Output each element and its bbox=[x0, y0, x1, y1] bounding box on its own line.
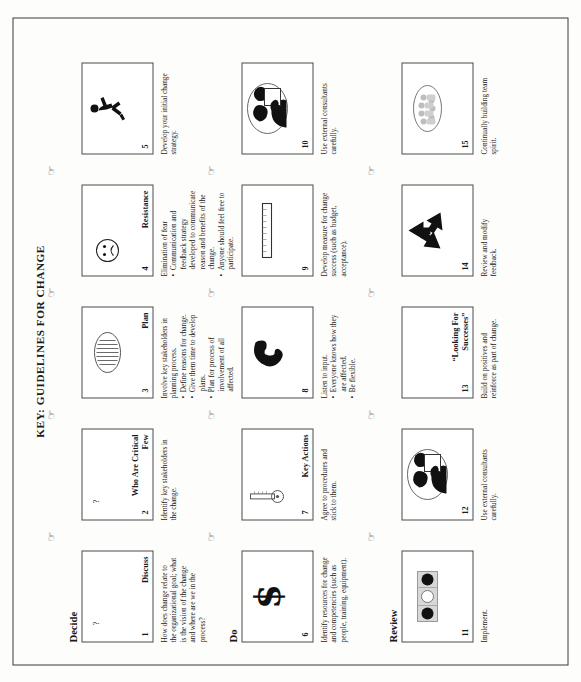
step-description: Build on positives and reinforce as part… bbox=[479, 312, 498, 398]
step-box-10[interactable]: 10 bbox=[241, 62, 313, 154]
step-number: 5 bbox=[140, 144, 149, 148]
desc-bullet: Everyone knows how they are affected. bbox=[328, 312, 347, 398]
desc-intro: Review and modify feedback. bbox=[479, 218, 497, 276]
row-label-decide: Decide bbox=[67, 611, 78, 642]
step-cell-3[interactable]: 3 Plan Involve key stakeholders in plann… bbox=[81, 306, 235, 398]
step-cell-1[interactable]: ? 1 Discuss How does change relate to th… bbox=[81, 550, 206, 642]
step-cell-4[interactable]: 4 Resistance Elimination of fear Communi… bbox=[81, 184, 235, 276]
step-description: Identify key stakeholders in the change. bbox=[159, 434, 178, 520]
step-caption: Plan bbox=[140, 312, 149, 328]
desc-bullet: Give them time to develop plans. bbox=[187, 312, 206, 398]
step-box-14[interactable]: 14 bbox=[401, 184, 473, 276]
desc-intro: Use external consultants carefully. bbox=[479, 449, 497, 520]
pointing-hand-icon: ☞ bbox=[365, 409, 376, 419]
rotated-page: KEY: GUIDELINES FOR CHANGE Decide ☞ ☞ ☞ … bbox=[0, 0, 581, 682]
step-box-13[interactable]: 13 “Looking For Successes” bbox=[401, 306, 473, 398]
step-description: Agree to procedures and stick to them. bbox=[319, 434, 338, 520]
step-box-11[interactable]: 11 bbox=[401, 550, 473, 642]
pointing-hand-icon: ☞ bbox=[205, 531, 216, 541]
step-cell-13[interactable]: 13 “Looking For Successes” Build on posi… bbox=[401, 306, 498, 398]
step-number: 9 bbox=[300, 266, 309, 270]
desc-bullet: Communication and feedback strategy deve… bbox=[168, 190, 215, 276]
pointing-hand-icon: ☞ bbox=[45, 409, 56, 419]
pointing-hand-icon: ☞ bbox=[365, 165, 376, 175]
step-cell-14[interactable]: 14 Review and modify feedback. bbox=[401, 184, 498, 276]
desc-intro: Elimination of fear bbox=[159, 220, 168, 276]
step-description: Continually building team spirit. bbox=[479, 68, 498, 154]
pointing-hand-icon: ☞ bbox=[45, 531, 56, 541]
desc-intro: Involve key stakeholders in planning pro… bbox=[159, 318, 177, 398]
desc-intro: Implement. bbox=[479, 609, 488, 642]
step-box-7[interactable]: 7 Key Actions bbox=[241, 428, 313, 520]
traffic-light-icon bbox=[404, 551, 450, 641]
step-box-3[interactable]: 3 Plan bbox=[81, 306, 153, 398]
row-review: Review ☞ ☞ ☞ ☞ bbox=[381, 38, 541, 642]
step-cell-9[interactable]: 9 Develop measure for change success (su… bbox=[241, 184, 347, 276]
step-number: 12 bbox=[460, 506, 469, 514]
step-box-9[interactable]: 9 bbox=[241, 184, 313, 276]
step-cell-10[interactable]: 10 Use external consultants carefully. bbox=[241, 62, 338, 154]
step-box-2[interactable]: ? 2 Who Are Critical Few bbox=[81, 428, 153, 520]
step-cell-7[interactable]: 7 Key Actions Agree to procedures and st… bbox=[241, 428, 338, 520]
step-box-8[interactable]: 8 bbox=[241, 306, 313, 398]
step-description: How does change relate to the organizati… bbox=[159, 556, 206, 642]
pointing-hand-icon: ☞ bbox=[205, 287, 216, 297]
step-number: 2 bbox=[140, 510, 149, 514]
step-number: 14 bbox=[460, 262, 469, 270]
question-mark-icon: ? bbox=[90, 621, 100, 625]
row-label-review: Review bbox=[387, 609, 398, 642]
step-cell-8[interactable]: 8 Listen to input. Everyone knows how th… bbox=[241, 306, 357, 398]
desc-intro: Develop your initial change strategy. bbox=[159, 73, 177, 154]
desc-intro: Use external consultants carefully. bbox=[319, 83, 337, 154]
step-cell-12[interactable]: 12 Use external consultants carefully. bbox=[401, 428, 498, 520]
page-stage: KEY: GUIDELINES FOR CHANGE Decide ☞ ☞ ☞ … bbox=[0, 0, 581, 682]
step-number: 3 bbox=[140, 388, 149, 392]
step-number: 13 bbox=[460, 384, 469, 392]
step-box-4[interactable]: 4 Resistance bbox=[81, 184, 153, 276]
desc-intro: How does change relate to the organizati… bbox=[159, 557, 206, 642]
pointing-hand-icon: ☞ bbox=[45, 287, 56, 297]
question-mark-icon: ? bbox=[90, 499, 100, 503]
desc-intro: Develop measure for change success (such… bbox=[319, 192, 347, 276]
step-box-6[interactable]: $ 6 bbox=[241, 550, 313, 642]
step-number: 6 bbox=[300, 632, 309, 636]
step-description: Identify resources for change and compet… bbox=[319, 556, 347, 642]
step-box-5[interactable]: 5 bbox=[81, 62, 153, 154]
guidelines-grid: Decide ☞ ☞ ☞ ☞ ? 1 Discuss How does chan… bbox=[61, 38, 541, 642]
step-caption: Who Are Critical Few bbox=[130, 434, 149, 496]
sad-face-icon bbox=[84, 173, 130, 275]
step-number: 8 bbox=[300, 388, 309, 392]
step-description: Use external consultants carefully. bbox=[319, 68, 338, 154]
key-icon bbox=[244, 413, 290, 519]
step-box-1[interactable]: ? 1 Discuss bbox=[81, 550, 153, 642]
step-description: Develop your initial change strategy. bbox=[159, 68, 178, 154]
desc-intro: Build on positives and reinforce as part… bbox=[479, 318, 497, 398]
desc-intro: Identify key stakeholders in the change. bbox=[159, 439, 177, 520]
svg-text:$: $ bbox=[247, 583, 287, 608]
step-number: 11 bbox=[460, 628, 469, 636]
consultants-handshake-icon bbox=[244, 63, 290, 153]
step-caption: Resistance bbox=[140, 190, 149, 228]
step-cell-11[interactable]: 11 Implement. bbox=[401, 550, 488, 642]
pointing-hand-icon: ☞ bbox=[205, 409, 216, 419]
step-number: 15 bbox=[460, 140, 469, 148]
step-cell-6[interactable]: $ 6 Identify resources for change and co… bbox=[241, 550, 347, 642]
step-cell-5[interactable]: 5 Develop your initial change strategy. bbox=[81, 62, 178, 154]
row-decide: Decide ☞ ☞ ☞ ☞ ? 1 Discuss How does chan… bbox=[61, 38, 221, 642]
running-person-icon bbox=[84, 63, 130, 153]
step-number: 1 bbox=[140, 632, 149, 636]
row-do: Do ☞ ☞ ☞ ☞ $ 6 bbox=[221, 38, 381, 642]
team-oval-icon bbox=[404, 63, 450, 153]
step-caption: “Looking For Successes” bbox=[450, 312, 469, 374]
desc-bullet: Be flexible. bbox=[347, 312, 356, 398]
ear-listening-icon bbox=[244, 307, 290, 397]
desc-bullet: Define reasons for change. bbox=[178, 312, 187, 398]
desc-intro: Continually building team spirit. bbox=[479, 77, 497, 154]
step-cell-15[interactable]: 15 Continually building team spirit. bbox=[401, 62, 498, 154]
step-box-15[interactable]: 15 bbox=[401, 62, 473, 154]
step-box-12[interactable]: 12 bbox=[401, 428, 473, 520]
row-label-do: Do bbox=[227, 629, 238, 642]
pointing-hand-icon: ☞ bbox=[365, 531, 376, 541]
desc-intro: Listen to input. bbox=[319, 354, 328, 398]
step-cell-2[interactable]: ? 2 Who Are Critical Few Identify key st… bbox=[81, 428, 178, 520]
